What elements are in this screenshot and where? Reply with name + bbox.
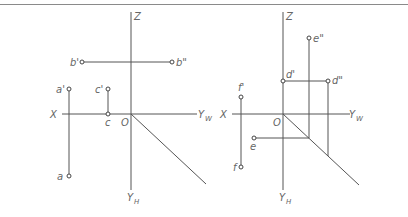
point-e-double-prime [307,36,311,40]
label-e-double-prime: e" [313,33,324,44]
label-b-prime: b' [70,57,79,68]
x-axis-label: X [49,109,58,120]
yw-axis-subscript: W [356,115,364,123]
point-a [67,174,71,178]
point-a-prime [67,87,71,91]
label-c-prime: c' [95,84,103,95]
point-e [252,136,256,140]
diagonal-45-line [283,114,359,185]
label-f: f [233,162,238,173]
point-c [106,112,110,116]
projection-diagrams: Z X Y W Y H O b' b" a' a c' c Z X Y W Y … [0,0,408,217]
point-f [239,165,243,169]
label-d-double-prime: d" [332,75,343,86]
label-a-prime: a' [56,84,65,95]
label-d-prime: d' [286,69,295,80]
point-f-prime [239,95,243,99]
label-c: c [105,117,111,128]
yw-axis-label: Y [198,109,205,120]
origin-label: O [273,117,281,128]
yw-axis-label: Y [349,109,356,120]
yh-axis-label: Y [127,192,134,203]
point-b-prime [80,60,84,64]
label-a: a [57,171,63,182]
origin-label: O [121,117,129,128]
point-b-double-prime [170,60,174,64]
point-c-prime [106,87,110,91]
yh-axis-subscript: H [286,198,292,206]
label-e: e [250,141,256,152]
left-diagram: Z X Y W Y H O b' b" a' a c' c [49,11,213,206]
diagonal-45-line [131,114,206,184]
right-diagram: Z X Y W Y H O e" d' d" f' e f [219,11,364,206]
yw-axis-subscript: W [205,115,213,123]
point-d-double-prime [326,79,330,83]
z-axis-label: Z [285,11,294,22]
label-b-double-prime: b" [176,57,187,68]
z-axis-label: Z [133,11,142,22]
label-f-prime: f' [238,82,244,93]
x-axis-label: X [219,109,228,120]
yh-axis-subscript: H [134,198,140,206]
point-d-prime [281,79,285,83]
yh-axis-label: Y [279,192,286,203]
